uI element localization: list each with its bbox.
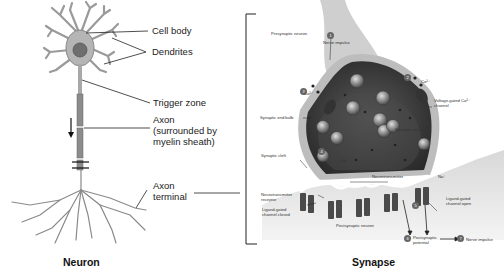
label-voltage-gated-line2: channel <box>434 103 470 108</box>
label-nerve-impulse-top: Nerve impulse <box>323 40 350 45</box>
label-synaptic-cleft: Synaptic cleft <box>261 153 286 158</box>
label-postsynaptic-potential-line2: potential <box>413 240 437 245</box>
label-synaptic-vesicles: Synaptic vesicles <box>395 127 427 132</box>
label-voltage-gated-channel: Voltage-gated Ca²⁺ channel <box>434 98 470 108</box>
label-nt-receptor-line2: receptor <box>261 197 292 202</box>
label-ligand-open-line2: channel open <box>446 201 471 206</box>
label-ligand-gated-open: Ligand-gated channel open <box>446 196 471 206</box>
label-ca-inner: Ca²⁺ <box>340 158 349 163</box>
synapse-illustration <box>0 0 504 271</box>
step-marker-5: 5 <box>412 202 419 209</box>
label-synaptic-end-bulb: Synaptic end bulb <box>260 115 293 120</box>
label-ligand-gated-closed: Ligand-gated channel closed <box>262 207 290 217</box>
label-nerve-impulse-bottom: Nerve impulse <box>466 237 493 242</box>
label-presynaptic-neuron: Presynaptic neuron <box>271 31 307 36</box>
label-postsynaptic-neuron: Postsynaptic neuron <box>336 223 374 228</box>
step-marker-6: 6 <box>404 235 411 242</box>
step-marker-7: 7 <box>457 235 464 242</box>
label-ca-top: Ca²⁺ <box>421 79 430 84</box>
label-neurotransmitter: Neurotransmitter <box>372 174 403 179</box>
label-ca-left: Ca²⁺ <box>304 91 313 96</box>
label-na: Na⁺ <box>438 174 445 179</box>
synapse-title: Synapse <box>352 256 395 268</box>
step-marker-1: 1 <box>327 32 334 39</box>
bracket <box>246 14 257 244</box>
step-marker-2: 2 <box>404 74 411 81</box>
label-ligand-closed-line2: channel closed <box>262 212 290 217</box>
label-postsynaptic-potential: Postsynaptic potential <box>413 235 437 245</box>
step-marker-4: 4 <box>318 148 325 155</box>
label-neurotransmitter-receptor: Neurotransmitter receptor <box>261 192 292 202</box>
